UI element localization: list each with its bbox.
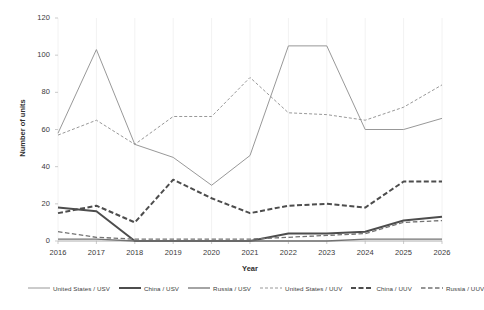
legend-line-swatch bbox=[188, 284, 210, 292]
x-axis-tick-label: 2025 bbox=[385, 248, 423, 257]
legend-line-swatch bbox=[351, 284, 373, 292]
legend-item-1[interactable]: China / USV bbox=[119, 284, 179, 292]
legend-item-4[interactable]: China / UUV bbox=[351, 284, 412, 292]
x-axis-tick-label: 2016 bbox=[39, 248, 77, 257]
y-axis-tick-label: 120 bbox=[24, 13, 50, 22]
x-axis-tick-label: 2017 bbox=[77, 248, 115, 257]
y-axis-tick-label: 100 bbox=[24, 50, 50, 59]
legend-item-label: China / UUV bbox=[376, 285, 412, 292]
y-axis-tick-label: 60 bbox=[24, 125, 50, 134]
legend-item-label: China / USV bbox=[144, 285, 179, 292]
x-axis-tick-label: 2021 bbox=[231, 248, 269, 257]
x-axis-tick-label: 2024 bbox=[346, 248, 384, 257]
legend-item-label: United States / USV bbox=[53, 285, 110, 292]
x-axis-tick-label: 2022 bbox=[269, 248, 307, 257]
legend-line-swatch bbox=[119, 284, 141, 292]
legend-item-3[interactable]: United States / UUV bbox=[260, 284, 342, 292]
legend-item-label: Russia / UUV bbox=[446, 285, 484, 292]
y-axis-tick-label: 40 bbox=[24, 162, 50, 171]
x-axis-tick-label: 2023 bbox=[308, 248, 346, 257]
legend-line-swatch bbox=[260, 284, 282, 292]
legend-item-0[interactable]: United States / USV bbox=[28, 284, 110, 292]
legend-item-2[interactable]: Russia / USV bbox=[188, 284, 251, 292]
legend-item-label: United States / UUV bbox=[285, 285, 342, 292]
x-axis-tick-label: 2026 bbox=[423, 248, 461, 257]
legend-line-swatch bbox=[421, 284, 443, 292]
y-axis-tick-label: 20 bbox=[24, 199, 50, 208]
chart-legend: United States / USVChina / USVRussia / U… bbox=[28, 281, 468, 295]
x-axis-title: Year bbox=[200, 264, 300, 273]
x-axis-tick-label: 2018 bbox=[116, 248, 154, 257]
y-axis-tick-label: 80 bbox=[24, 87, 50, 96]
legend-item-5[interactable]: Russia / UUV bbox=[421, 284, 484, 292]
x-axis-tick-label: 2019 bbox=[154, 248, 192, 257]
legend-item-label: Russia / USV bbox=[213, 285, 251, 292]
y-axis-title: Number of units bbox=[18, 78, 27, 178]
x-axis-tick-label: 2020 bbox=[193, 248, 231, 257]
y-axis-tick-label: 0 bbox=[24, 236, 50, 245]
legend-line-swatch bbox=[28, 284, 50, 292]
